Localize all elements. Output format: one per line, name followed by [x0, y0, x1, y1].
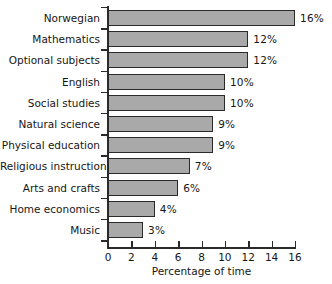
x-axis-tick — [178, 241, 179, 248]
y-axis-tick-label: Social studies — [0, 95, 100, 111]
bar — [108, 158, 190, 174]
y-axis-tick — [101, 155, 108, 156]
y-axis-tick — [101, 134, 108, 135]
bar-row: 10% — [108, 74, 295, 90]
bar-value-label: 9% — [218, 118, 235, 130]
y-axis-tick-label: English — [0, 74, 100, 90]
x-axis-tick-label: 14 — [261, 251, 283, 263]
y-axis-tick — [101, 198, 108, 199]
bar-row: 9% — [108, 137, 295, 153]
y-axis-tick — [101, 240, 108, 241]
bar — [108, 201, 155, 217]
bar-row: 7% — [108, 158, 295, 174]
y-axis-tick-label: Music — [0, 222, 100, 238]
x-axis-tick-label: 6 — [167, 251, 189, 263]
bar-value-label: 6% — [183, 182, 200, 194]
y-axis-tick — [101, 113, 108, 114]
x-axis-tick — [202, 241, 203, 248]
y-axis-tick — [101, 49, 108, 50]
x-axis-tick — [131, 241, 132, 248]
x-axis-tick-label: 10 — [214, 251, 236, 263]
bar-row: 16% — [108, 10, 295, 26]
bar-row: 6% — [108, 180, 295, 196]
y-axis-tick — [101, 219, 108, 220]
y-axis-tick — [101, 7, 108, 8]
y-axis-tick-label: Arts and crafts — [0, 180, 100, 196]
x-axis-tick — [248, 241, 249, 248]
bar-value-label: 9% — [218, 139, 235, 151]
x-axis-tick-label: 0 — [97, 251, 119, 263]
x-axis-tick — [155, 241, 156, 248]
x-axis-tick — [225, 241, 226, 248]
bar-value-label: 12% — [253, 54, 277, 66]
bar-row: 12% — [108, 52, 295, 68]
y-axis-tick-label: Optional subjects — [0, 52, 100, 68]
y-axis-tick — [101, 28, 108, 29]
bar — [108, 95, 225, 111]
y-axis-tick — [101, 71, 108, 72]
bar — [108, 31, 248, 47]
bar-row: 4% — [108, 201, 295, 217]
y-axis-tick-label: Home economics — [0, 201, 100, 217]
bar-row: 10% — [108, 95, 295, 111]
y-axis-tick-label: Mathematics — [0, 31, 100, 47]
bar — [108, 180, 178, 196]
bar-value-label: 10% — [230, 76, 254, 88]
bar — [108, 222, 143, 238]
y-axis-line — [107, 6, 109, 249]
x-axis-tick-label: 4 — [144, 251, 166, 263]
x-axis-tick-label: 12 — [237, 251, 259, 263]
x-axis-tick — [272, 241, 273, 248]
y-axis-tick — [101, 177, 108, 178]
bar-value-label: 12% — [253, 33, 277, 45]
bar-chart: NorwegianMathematicsOptional subjectsEng… — [0, 0, 332, 284]
bar-row: 9% — [108, 116, 295, 132]
y-axis-tick-label: Norwegian — [0, 10, 100, 26]
bar-value-label: 10% — [230, 97, 254, 109]
x-axis-tick-label: 8 — [191, 251, 213, 263]
x-axis-tick — [108, 241, 109, 248]
bar-row: 3% — [108, 222, 295, 238]
bar — [108, 137, 213, 153]
bar — [108, 116, 213, 132]
x-axis-title: Percentage of time — [108, 265, 295, 277]
bar-value-label: 7% — [195, 160, 212, 172]
plot-area: 16%12%12%10%10%9%9%7%6%4%3% — [108, 8, 295, 241]
bar — [108, 74, 225, 90]
x-axis-tick-label: 2 — [120, 251, 142, 263]
y-axis-tick-label: Physical education — [0, 137, 100, 153]
bar — [108, 52, 248, 68]
bar-row: 12% — [108, 31, 295, 47]
bar-value-label: 3% — [148, 224, 165, 236]
x-axis-tick — [295, 241, 296, 248]
y-axis-labels: NorwegianMathematicsOptional subjectsEng… — [0, 8, 104, 241]
x-axis-tick-label: 16 — [284, 251, 306, 263]
y-axis-tick-label: Religious instruction — [0, 158, 100, 174]
y-axis-tick — [101, 92, 108, 93]
bar-value-label: 16% — [300, 12, 324, 24]
y-axis-tick-label: Natural science — [0, 116, 100, 132]
bar-value-label: 4% — [160, 203, 177, 215]
bar — [108, 10, 295, 26]
